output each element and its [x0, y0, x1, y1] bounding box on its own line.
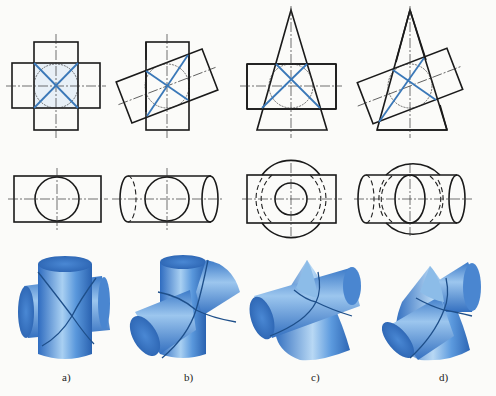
panel-d-3d-render — [376, 262, 481, 363]
panel-d-label: d) — [439, 371, 448, 383]
figure-canvas: a) b) c) d) — [0, 0, 496, 396]
panel-d-top-view — [354, 163, 472, 236]
panel-a-3d-render — [18, 256, 110, 359]
technical-drawing — [0, 0, 496, 396]
panel-b-top-view — [112, 168, 222, 230]
panel-a-front-view — [6, 34, 106, 138]
panel-a-top-view — [8, 168, 108, 230]
panel-d-front-view — [350, 6, 470, 138]
panel-a-label: a) — [62, 371, 71, 383]
panel-b-label: b) — [184, 371, 193, 383]
panel-c-3d-render — [245, 260, 361, 360]
panel-c-top-view — [242, 160, 342, 237]
panel-c-label: c) — [311, 371, 320, 383]
panel-b-3d-render — [124, 255, 240, 361]
panel-b-front-view — [111, 34, 224, 138]
panel-c-front-view — [240, 6, 342, 138]
